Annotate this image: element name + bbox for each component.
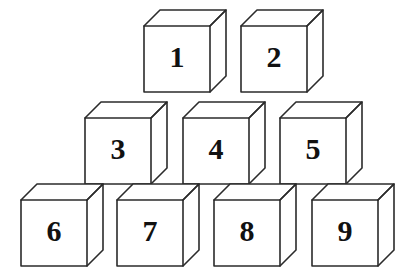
cube-label-1: 1	[170, 40, 185, 73]
cube-label-5: 5	[306, 132, 321, 165]
cube-label-2: 2	[267, 40, 282, 73]
cube-6[interactable]: 6	[21, 184, 103, 266]
cube-diagram: 123456789	[0, 0, 409, 276]
cube-8[interactable]: 8	[214, 184, 296, 266]
cube-label-6: 6	[47, 214, 62, 247]
cube-9[interactable]: 9	[312, 184, 394, 266]
cube-4[interactable]: 4	[183, 102, 265, 184]
cube-label-4: 4	[209, 132, 224, 165]
cube-2[interactable]: 2	[241, 10, 323, 92]
cube-3[interactable]: 3	[85, 102, 167, 184]
middle-row: 345	[85, 102, 362, 184]
cube-7[interactable]: 7	[117, 184, 199, 266]
cube-label-3: 3	[111, 132, 126, 165]
cube-5[interactable]: 5	[280, 102, 362, 184]
cube-1[interactable]: 1	[144, 10, 226, 92]
bottom-row: 6789	[21, 184, 394, 266]
cube-label-9: 9	[338, 214, 353, 247]
figure-canvas: 123456789	[0, 0, 409, 276]
cube-label-8: 8	[240, 214, 255, 247]
cube-label-7: 7	[143, 214, 158, 247]
cube-layer: 123456789	[0, 0, 409, 276]
top-row: 12	[144, 10, 323, 92]
